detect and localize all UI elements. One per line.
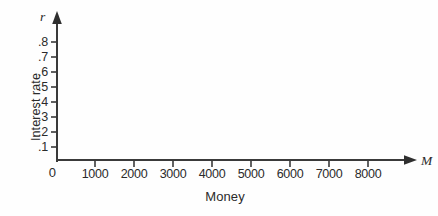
x-axis-title: Money bbox=[165, 190, 285, 203]
plot-area bbox=[58, 12, 408, 160]
x-axis-ticks bbox=[95, 160, 368, 167]
y-tick-label: .7 bbox=[22, 51, 48, 64]
y-tick-label: .1 bbox=[22, 141, 48, 154]
y-axis-title: Interest rate bbox=[30, 73, 43, 141]
y-axis-symbol: r bbox=[40, 10, 45, 24]
x-axis-symbol: M bbox=[421, 154, 432, 168]
x-tick-label: 8000 bbox=[345, 168, 391, 181]
chart-figure: r M .8 .7 .6 .5 .4 .3 .2 .1 0 1000 2000 … bbox=[0, 0, 438, 216]
origin-label: 0 bbox=[36, 166, 56, 179]
y-tick-label: .8 bbox=[22, 36, 48, 49]
